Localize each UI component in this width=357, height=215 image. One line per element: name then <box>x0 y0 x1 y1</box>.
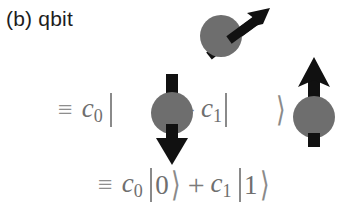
ket-bar-open-1 <box>225 93 227 127</box>
coefficient-c0: c0 <box>82 95 102 125</box>
ket-angle-close-zero: ⟩ <box>170 171 179 198</box>
ket-bar-open-one <box>239 168 241 202</box>
spin-down-arrowhead <box>156 138 188 165</box>
identity-symbol-2: ≡ <box>98 172 113 198</box>
identity-symbol: ≡ <box>58 97 73 123</box>
spin-up-sphere <box>293 96 335 138</box>
spin-up-glyph <box>290 57 340 149</box>
plus-symbol-2: + <box>188 170 205 200</box>
ket-value-zero: 0 <box>155 172 169 199</box>
tilted-spin-glyph <box>195 8 275 70</box>
tilted-spin-icon <box>195 8 275 70</box>
ket-value-one: 1 <box>244 172 258 199</box>
digit-equation-row: ≡ c0 0 ⟩ + c1 1 ⟩ <box>98 168 271 202</box>
panel-label: (b) qbit <box>6 6 73 32</box>
ket-angle-close-1: ⟩ <box>275 96 284 123</box>
ket-angle-close-one: ⟩ <box>259 171 268 198</box>
spin-down-glyph <box>148 72 196 168</box>
spin-down-icon <box>148 72 196 168</box>
qbit-figure-panel: (b) qbit ≡ c0 ⟩ + c1 ⟩ <box>0 0 357 215</box>
ket-bar-open-0 <box>110 93 112 127</box>
spin-up-slot <box>230 93 274 127</box>
coefficient-c1-digit: c1 <box>211 170 231 200</box>
ket-bar-open-zero <box>150 168 152 202</box>
coefficient-c1: c1 <box>201 95 221 125</box>
spin-up-shaft-lower <box>308 133 320 147</box>
coefficient-c0-digit: c0 <box>122 170 142 200</box>
spin-up-icon <box>290 57 340 149</box>
